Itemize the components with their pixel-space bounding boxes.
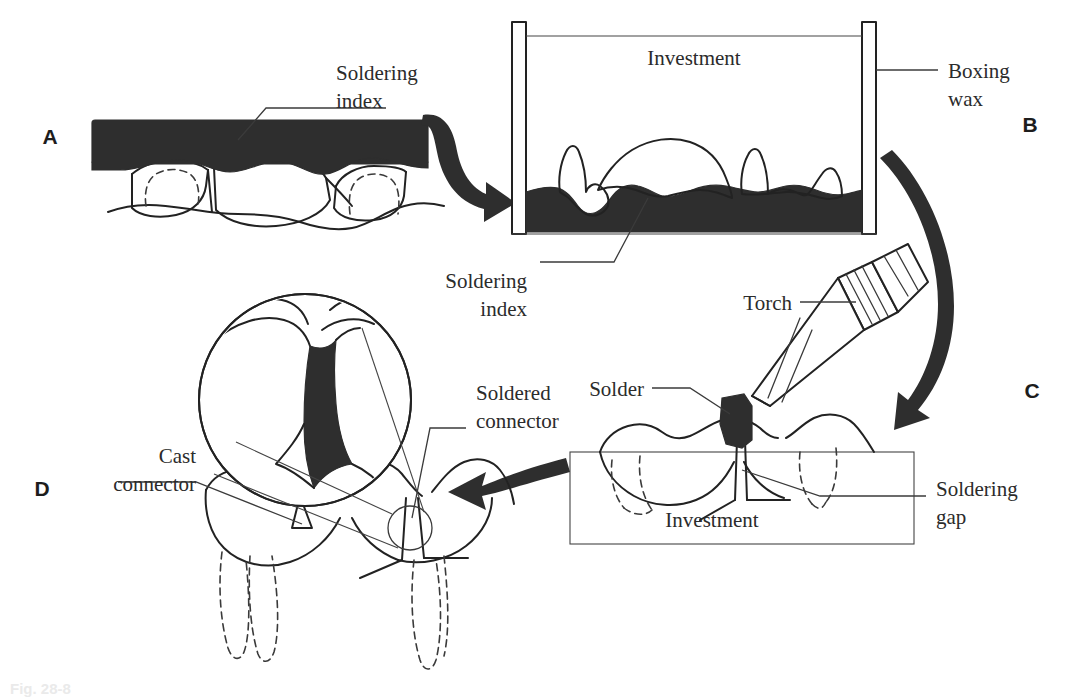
panel-letter-a: A [42, 125, 57, 148]
label-soldering-gap-line1: Soldering [936, 477, 1018, 501]
soldering-figure: A Soldering index [0, 0, 1086, 698]
label-investment-c: Investment [665, 508, 758, 532]
label-soldering-gap-line2: gap [936, 505, 966, 529]
boxing-wax-right-wall [862, 22, 876, 234]
label-investment-b: Investment [647, 46, 740, 70]
panel-letter-b: B [1022, 113, 1037, 136]
panel-letter-d: D [34, 477, 49, 500]
label-cast-connector-line1: Cast [159, 444, 197, 468]
boxing-wax-left-wall [512, 22, 526, 234]
figure-background [0, 0, 1086, 698]
label-solder: Solder [589, 377, 644, 401]
label-boxing-wax-line1: Boxing [948, 59, 1010, 83]
label-soldered-connector-line2: connector [476, 409, 559, 433]
solder-block [720, 394, 752, 448]
label-soldering-index-b-line1: Soldering [445, 269, 527, 293]
soldering-index-block-a [92, 120, 428, 164]
label-soldering-index-b-line2: index [480, 297, 527, 321]
figure-root: A Soldering index [0, 0, 1086, 698]
figure-caption: Fig. 28-8 [10, 680, 71, 697]
label-torch: Torch [743, 291, 792, 315]
label-soldered-connector-line1: Soldered [476, 381, 551, 405]
label-soldering-index-a-line1: Soldering [336, 61, 418, 85]
label-boxing-wax-line2: wax [948, 87, 983, 111]
panel-letter-c: C [1024, 379, 1039, 402]
label-cast-connector-line2: connector [113, 472, 196, 496]
label-soldering-index-a-line2: index [336, 89, 383, 113]
